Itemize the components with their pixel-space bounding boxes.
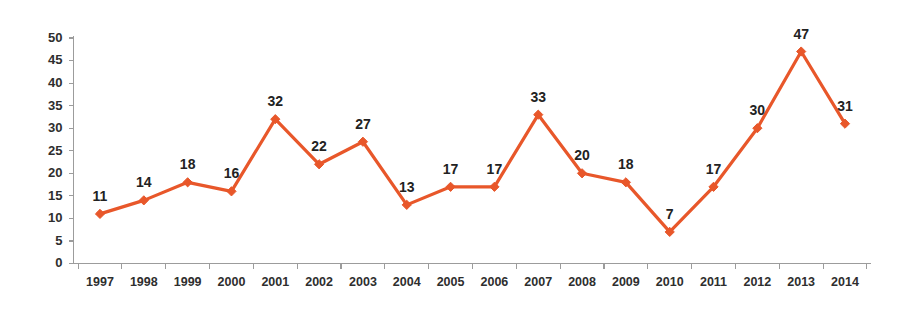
x-tick-label: 2012: [743, 275, 771, 289]
x-tick-label: 2009: [612, 275, 640, 289]
data-point-label: 13: [399, 179, 415, 195]
y-tick-label: 15: [48, 188, 62, 203]
x-tick-label: 1998: [130, 275, 158, 289]
x-tick-label: 2014: [831, 275, 859, 289]
line-chart: 05101520253035404550 1997199819992000200…: [0, 0, 920, 315]
y-tick-label: 0: [55, 255, 62, 270]
data-point-label: 33: [530, 89, 546, 105]
data-point-label: 18: [180, 156, 196, 172]
y-tick-label: 10: [48, 210, 62, 225]
x-tick-label: 2013: [787, 275, 815, 289]
y-tick-label: 50: [48, 30, 62, 45]
data-point-label: 20: [574, 147, 590, 163]
data-point-label: 17: [443, 161, 459, 177]
x-tick-label: 1999: [174, 275, 202, 289]
y-tick-label: 30: [48, 120, 62, 135]
data-point-label: 32: [268, 93, 284, 109]
x-tick-label: 2003: [349, 275, 377, 289]
y-tick-label: 5: [55, 233, 62, 248]
y-tick-label: 20: [48, 165, 62, 180]
y-tick-label: 25: [48, 143, 62, 158]
y-tick-label: 45: [48, 52, 62, 67]
y-tick-label: 35: [48, 98, 62, 113]
data-point-label: 7: [666, 206, 674, 222]
chart-background: [0, 0, 920, 315]
data-point-label: 18: [618, 156, 634, 172]
x-tick-label: 2007: [524, 275, 552, 289]
x-tick-label: 2011: [700, 275, 727, 289]
data-point-label: 30: [750, 102, 766, 118]
y-tick-label: 40: [48, 75, 62, 90]
x-tick-label: 2005: [437, 275, 465, 289]
data-point-label: 17: [487, 161, 503, 177]
data-point-label: 47: [793, 26, 809, 42]
data-point-label: 31: [837, 98, 853, 114]
x-tick-label: 2006: [481, 275, 509, 289]
data-point-label: 11: [93, 188, 108, 204]
x-tick-label: 2004: [393, 275, 421, 289]
x-tick-label: 2002: [305, 275, 333, 289]
data-point-label: 14: [136, 174, 152, 190]
chart-canvas: 05101520253035404550 1997199819992000200…: [0, 0, 920, 315]
x-tick-label: 2001: [261, 275, 289, 289]
x-tick-label: 2008: [568, 275, 596, 289]
x-tick-label: 1997: [86, 275, 114, 289]
x-tick-label: 2010: [656, 275, 684, 289]
data-point-label: 27: [355, 116, 371, 132]
x-tick-label: 2000: [218, 275, 246, 289]
data-point-label: 22: [311, 138, 327, 154]
data-point-label: 17: [706, 161, 722, 177]
data-point-label: 16: [224, 165, 240, 181]
